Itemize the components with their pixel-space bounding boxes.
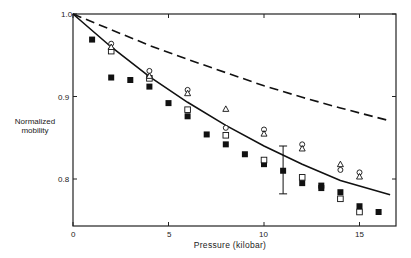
filled-square-marker <box>89 37 95 43</box>
x-tick-label-10: 10 <box>259 230 268 239</box>
curves <box>73 14 390 195</box>
y-tick-label-1.0: 1.0 <box>61 10 72 19</box>
filled-square-marker <box>337 189 343 195</box>
open-square-marker <box>223 132 229 138</box>
filled-square-marker <box>185 113 191 119</box>
filled-square-marker <box>299 180 305 186</box>
open-circle-marker <box>223 125 228 130</box>
filled-square-marker <box>318 185 324 191</box>
y-tick-label-0.8: 0.8 <box>58 175 69 184</box>
filled-square-marker <box>166 100 172 106</box>
y-axis-title-line2: mobility <box>2 126 68 135</box>
x-axis-title: Pressure (kilobar) <box>130 240 330 250</box>
open-triangle-marker <box>223 106 229 112</box>
y-tick-label-0.9: 0.9 <box>58 93 69 102</box>
filled-square-marker <box>204 131 210 137</box>
filled-square-marker <box>127 77 133 83</box>
x-tick-label-5: 5 <box>167 230 171 239</box>
x-tick-label-0: 0 <box>71 230 75 239</box>
y-axis-title-line1: Normalized <box>2 117 68 126</box>
solid-curve <box>73 14 390 195</box>
plot-frame <box>73 14 396 226</box>
x-tick-label-15: 15 <box>355 230 364 239</box>
dashed-curve <box>73 14 388 120</box>
filled-square-marker <box>146 84 152 90</box>
open-square-marker <box>338 196 344 202</box>
filled-square-marker <box>223 141 229 147</box>
open-triangle-marker <box>337 161 343 167</box>
open-square-marker <box>299 175 305 181</box>
open-circle-marker <box>338 167 343 172</box>
open-square-marker <box>261 157 267 163</box>
filled-square-marker <box>242 151 248 157</box>
filled-square-marker <box>376 209 382 215</box>
open-square-marker <box>357 209 363 215</box>
filled-square-marker <box>357 203 363 209</box>
plot-border <box>73 14 396 226</box>
y-axis-title: Normalized mobility <box>2 117 68 135</box>
filled-square-marker <box>108 75 114 81</box>
open-square-marker <box>185 107 191 113</box>
